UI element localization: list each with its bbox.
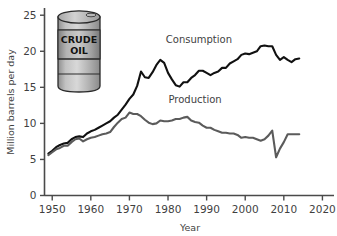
- y-tick-label: 15: [23, 81, 36, 93]
- barrel-label-crude: CRUDE: [61, 34, 97, 45]
- y-axis-title: Million barrels per day: [5, 49, 16, 155]
- x-tick-label: 1950: [39, 203, 66, 215]
- crude-oil-barrel-illustration: CRUDE OIL: [58, 11, 100, 92]
- x-tick-label: 1960: [77, 203, 104, 215]
- x-axis-title: Year: [179, 222, 200, 233]
- series-label-production: Production: [168, 94, 221, 105]
- x-tick-label: 1970: [116, 203, 143, 215]
- y-tick-label: 5: [30, 153, 37, 165]
- y-tick-label: 0: [30, 189, 37, 201]
- x-tick-label: 2000: [232, 203, 259, 215]
- chart-canvas: 0510152025 19501960197019801990200020102…: [0, 0, 337, 236]
- x-tick-label: 1990: [193, 203, 220, 215]
- x-tick-label: 2020: [309, 203, 336, 215]
- x-tick-label: 2010: [270, 203, 297, 215]
- y-tick-label: 20: [23, 45, 36, 57]
- y-tick-label: 25: [23, 9, 36, 21]
- x-tick-label: 1980: [155, 203, 182, 215]
- crude-oil-chart-figure: 0510152025 19501960197019801990200020102…: [0, 0, 337, 236]
- barrel-cap: [86, 13, 96, 17]
- barrel-label-oil: OIL: [70, 45, 88, 56]
- y-tick-label: 10: [23, 117, 36, 129]
- series-label-consumption: Consumption: [166, 34, 232, 45]
